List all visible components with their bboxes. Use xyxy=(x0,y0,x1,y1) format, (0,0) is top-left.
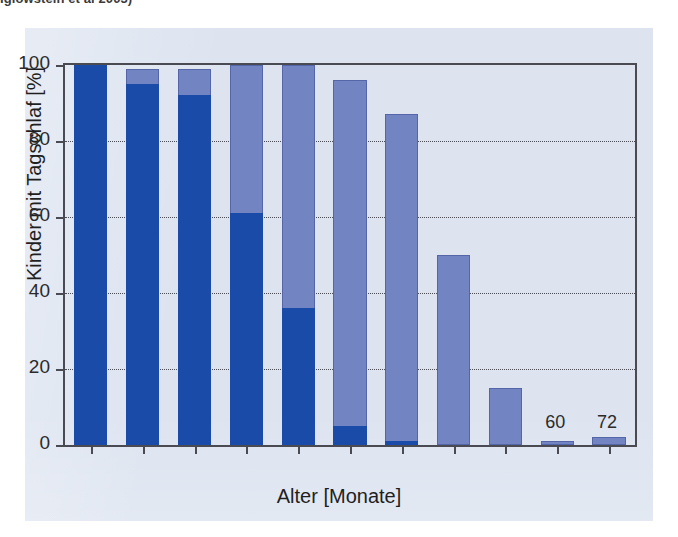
bar-slot-48 xyxy=(480,65,532,445)
bar-slot-36 xyxy=(428,65,480,445)
bar-slot-24 xyxy=(376,65,428,445)
bar-segment-dark-12[interactable] xyxy=(282,308,315,445)
bar-60[interactable] xyxy=(541,441,574,445)
x-tick-6 xyxy=(195,445,197,454)
x-tick-18 xyxy=(350,445,352,454)
bar-48[interactable] xyxy=(489,388,522,445)
bar-12[interactable] xyxy=(282,65,315,445)
bar-24[interactable] xyxy=(385,114,418,445)
bar-segment-light-72[interactable] xyxy=(592,437,625,445)
x-tick-72 xyxy=(609,445,611,454)
bar-slot-60 xyxy=(531,65,583,445)
figure-caption-truncated: Iglowstein et al 2003) xyxy=(0,0,678,14)
bar-segment-dark-24[interactable] xyxy=(385,441,418,445)
figure-caption-text: Iglowstein et al 2003) xyxy=(0,0,132,6)
bar-slot-9 xyxy=(220,65,272,445)
bar-3[interactable] xyxy=(126,69,159,445)
bar-slot-12 xyxy=(272,65,324,445)
y-tick-label-100: 100 xyxy=(2,52,50,74)
bar-slot-18 xyxy=(324,65,376,445)
bar-segment-light-18[interactable] xyxy=(333,80,366,426)
x-axis-title: Alter [Monate] xyxy=(25,485,653,508)
y-tick-0 xyxy=(56,445,65,447)
bar-segment-light-60[interactable] xyxy=(541,441,574,445)
y-tick-40 xyxy=(56,293,65,295)
bar-segment-dark-9[interactable] xyxy=(230,213,263,445)
bar-1[interactable] xyxy=(74,65,107,445)
bar-6[interactable] xyxy=(178,69,211,445)
y-tick-label-80: 80 xyxy=(2,128,50,150)
x-tick-3 xyxy=(143,445,145,454)
bar-segment-dark-1[interactable] xyxy=(74,65,107,445)
bar-series-container xyxy=(65,65,635,445)
x-tick-60 xyxy=(557,445,559,454)
y-tick-label-20: 20 xyxy=(2,356,50,378)
bar-72[interactable] xyxy=(592,437,625,445)
x-tick-9 xyxy=(246,445,248,454)
x-tick-36 xyxy=(454,445,456,454)
x-tick-24 xyxy=(402,445,404,454)
bar-segment-light-36[interactable] xyxy=(437,255,470,445)
y-tick-label-0: 0 xyxy=(2,432,50,454)
bar-segment-light-12[interactable] xyxy=(282,65,315,308)
bar-segment-light-6[interactable] xyxy=(178,69,211,96)
bar-segment-dark-3[interactable] xyxy=(126,84,159,445)
y-tick-60 xyxy=(56,217,65,219)
bar-segment-light-24[interactable] xyxy=(385,114,418,441)
bar-18[interactable] xyxy=(333,80,366,445)
bar-slot-72 xyxy=(583,65,635,445)
bar-slot-1 xyxy=(65,65,117,445)
x-tick-12 xyxy=(298,445,300,454)
plot-area xyxy=(63,63,637,447)
y-tick-20 xyxy=(56,369,65,371)
bar-36[interactable] xyxy=(437,255,470,445)
bar-segment-dark-18[interactable] xyxy=(333,426,366,445)
y-tick-label-60: 60 xyxy=(2,204,50,226)
x-tick-1 xyxy=(91,445,93,454)
bar-segment-dark-6[interactable] xyxy=(178,95,211,445)
y-tick-80 xyxy=(56,141,65,143)
bar-segment-light-3[interactable] xyxy=(126,69,159,84)
y-tick-100 xyxy=(56,65,65,67)
bar-9[interactable] xyxy=(230,65,263,445)
x-tick-48 xyxy=(505,445,507,454)
bar-slot-3 xyxy=(117,65,169,445)
y-axis-title: Kinder mit Tagschlaf [%] xyxy=(23,67,46,281)
y-tick-label-40: 40 xyxy=(2,280,50,302)
bar-segment-light-48[interactable] xyxy=(489,388,522,445)
bar-segment-light-9[interactable] xyxy=(230,65,263,213)
bar-slot-6 xyxy=(169,65,221,445)
